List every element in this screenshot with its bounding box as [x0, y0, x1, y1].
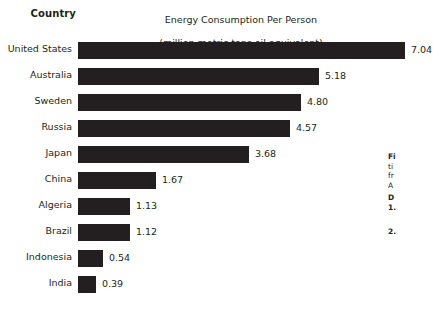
side-note-line-6: 1. [388, 203, 433, 213]
category-label: Algeria [0, 199, 72, 211]
bar-row: Japan3.68 [0, 144, 433, 170]
bar-row: United States7.04 [0, 40, 433, 66]
bar-value-label: 3.68 [255, 148, 276, 160]
bar-fill [78, 250, 103, 267]
bar-value-label: 1.67 [162, 174, 183, 186]
bar-fill [78, 172, 156, 189]
bar-value-label: 0.54 [109, 252, 130, 264]
chart-title-line-1: Energy Consumption Per Person [165, 14, 317, 25]
bar-value-label: 4.57 [296, 122, 317, 134]
bar [78, 224, 130, 241]
bar [78, 120, 290, 137]
bar-fill [78, 120, 290, 137]
bar-row: Indonesia0.54 [0, 248, 433, 274]
side-note-column: Fi ti fr A D 1. 2. [388, 152, 433, 236]
axis-header-country: Country [0, 8, 76, 19]
side-note-line-7: 2. [388, 227, 433, 237]
bar-fill [78, 276, 96, 293]
side-note-line-1: Fi [388, 152, 433, 162]
side-note-spacer-2 [388, 213, 433, 227]
side-note-line-4: A [388, 181, 433, 191]
side-note-line-3: fr [388, 171, 433, 181]
bar-fill [78, 146, 249, 163]
bar-row: Brazil1.12 [0, 222, 433, 248]
plot-area: United States7.04Australia5.18Sweden4.80… [0, 40, 433, 309]
bar-value-label: 0.39 [102, 278, 123, 290]
category-label: Sweden [0, 95, 72, 107]
bar-fill [78, 94, 301, 111]
category-label: India [0, 277, 72, 289]
bar-value-label: 5.18 [325, 70, 346, 82]
bar [78, 94, 301, 111]
category-label: United States [0, 43, 72, 55]
bar-row: China1.67 [0, 170, 433, 196]
bar-row: Algeria1.13 [0, 196, 433, 222]
bar-row: Sweden4.80 [0, 92, 433, 118]
category-label: Japan [0, 147, 72, 159]
bar-row: India0.39 [0, 274, 433, 300]
bar-value-label: 1.12 [136, 226, 157, 238]
category-label: Indonesia [0, 251, 72, 263]
bar-fill [78, 42, 405, 59]
bar-chart-figure: Country Energy Consumption Per Person (m… [0, 0, 433, 309]
category-label: Australia [0, 69, 72, 81]
bar [78, 146, 249, 163]
side-note-line-5: D [388, 193, 433, 203]
bar [78, 276, 96, 293]
bar-value-label: 7.04 [411, 44, 432, 56]
bar [78, 42, 405, 59]
bar-value-label: 1.13 [136, 200, 157, 212]
bar-row: Australia5.18 [0, 66, 433, 92]
side-note-line-2: ti [388, 162, 433, 172]
bar-value-label: 4.80 [307, 96, 328, 108]
category-label: Brazil [0, 225, 72, 237]
bar [78, 198, 130, 215]
category-label: China [0, 173, 72, 185]
category-label: Russia [0, 121, 72, 133]
bar-fill [78, 224, 130, 241]
bar [78, 68, 319, 85]
bar [78, 250, 103, 267]
bar [78, 172, 156, 189]
bar-row: Russia4.57 [0, 118, 433, 144]
bar-fill [78, 68, 319, 85]
bar-fill [78, 198, 130, 215]
